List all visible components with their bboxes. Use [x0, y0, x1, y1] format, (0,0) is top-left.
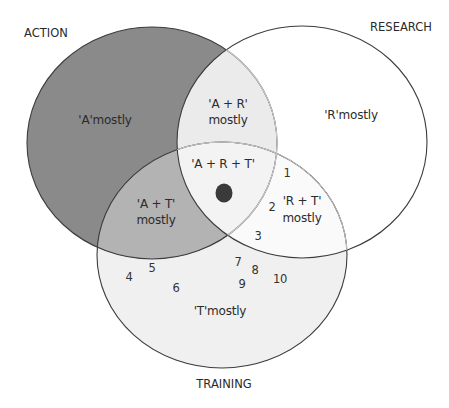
point-1: 1: [283, 166, 290, 181]
research-training-label-line2: mostly: [282, 211, 321, 226]
point-2: 2: [268, 200, 275, 215]
training-title: TRAINING: [196, 377, 251, 392]
training-only-label: 'T'mostly: [194, 304, 247, 319]
action-training-label-line2: mostly: [136, 213, 175, 228]
point-3: 3: [254, 229, 261, 244]
action-research-label-line1: 'A + R': [208, 97, 247, 112]
point-7: 7: [234, 255, 241, 270]
point-10: 10: [273, 272, 287, 287]
point-4: 4: [125, 270, 132, 285]
action-only-label: 'A'mostly: [78, 113, 131, 128]
point-8: 8: [251, 263, 258, 278]
position-marker-dot: [216, 184, 233, 203]
action-training-label-line1: 'A + T': [137, 197, 175, 212]
research-title: RESEARCH: [370, 20, 432, 35]
action-title: ACTION: [24, 26, 68, 41]
venn-diagram: [0, 0, 449, 408]
action-research-label-line2: mostly: [208, 113, 247, 128]
research-training-label-line1: 'R + T': [283, 194, 322, 209]
point-5: 5: [148, 261, 155, 276]
research-only-label: 'R'mostly: [324, 108, 378, 123]
point-6: 6: [172, 281, 179, 296]
point-9: 9: [238, 277, 245, 292]
all-three-label: 'A + R + T': [191, 157, 255, 172]
